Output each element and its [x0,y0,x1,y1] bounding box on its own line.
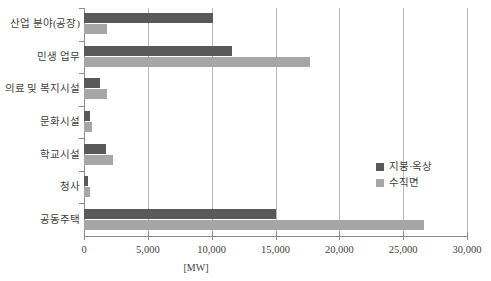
bar-vertical [84,57,310,67]
bar-roof [84,111,90,121]
x-tick-mark-10000 [212,232,213,240]
y-tick-mark [79,41,85,42]
y-tick-mark [79,73,85,74]
x-tick-label: 30,000 [453,244,482,255]
x-tick-mark-15000 [276,232,277,240]
bar-roof [84,144,106,154]
bar-roof [84,78,100,88]
x-tick-label: 5,000 [136,244,160,255]
x-tick-mark-5000 [148,232,149,240]
x-tick-label: 20,000 [325,244,354,255]
y-tick-mark [79,8,85,9]
x-axis-unit-label: [MW] [184,262,209,273]
legend-label: 지붕·옥상 [389,159,433,175]
x-tick-mark-25000 [403,232,404,240]
y-tick-mark [79,203,85,204]
legend-entry[interactable]: 수직면 [376,175,433,191]
category-label: 의료 및 복지시설 [4,83,80,95]
bar-vertical [84,122,92,132]
bar-roof [84,13,213,23]
gridline-20000 [339,8,340,236]
bar-vertical [84,24,107,34]
bar-roof [84,176,88,186]
legend-swatch-icon [376,179,384,187]
category-axis: 산업 분야(공장)민생 업무의료 및 복지시설문화시설학교시설청사공동주택 [0,8,80,236]
category-label: 공동주택 [4,214,80,226]
plot-area [84,8,467,236]
bar-vertical [84,187,90,197]
bar-vertical [84,155,113,165]
y-tick-mark [79,138,85,139]
gridline-25000 [403,8,404,236]
chart-legend: 지붕·옥상수직면 [376,159,433,191]
x-tick-mark-0 [84,232,85,240]
category-label: 청사 [4,181,80,193]
x-tick-label: 25,000 [389,244,418,255]
gridline-15000 [276,8,277,236]
bar-vertical [84,89,107,99]
category-label: 학교시설 [4,149,80,161]
bar-roof [84,46,232,56]
gridline-10000 [212,8,213,236]
y-tick-mark [79,106,85,107]
x-tick-label: 15,000 [261,244,290,255]
gridline-5000 [148,8,149,236]
category-label: 민생 업무 [4,51,80,63]
gridline-30000 [467,8,468,236]
legend-entry[interactable]: 지붕·옥상 [376,159,433,175]
x-tick-mark-30000 [467,232,468,240]
category-label: 문화시설 [4,116,80,128]
legend-swatch-icon [376,163,384,171]
bar-roof [84,209,276,219]
y-tick-mark [79,171,85,172]
x-tick-label: 0 [81,244,86,255]
bar-vertical [84,220,424,230]
x-tick-label: 10,000 [197,244,226,255]
x-tick-mark-20000 [339,232,340,240]
legend-label: 수직면 [389,175,419,191]
bar-chart: 산업 분야(공장)민생 업무의료 및 복지시설문화시설학교시설청사공동주택 05… [0,0,491,281]
category-label: 산업 분야(공장) [4,18,80,30]
